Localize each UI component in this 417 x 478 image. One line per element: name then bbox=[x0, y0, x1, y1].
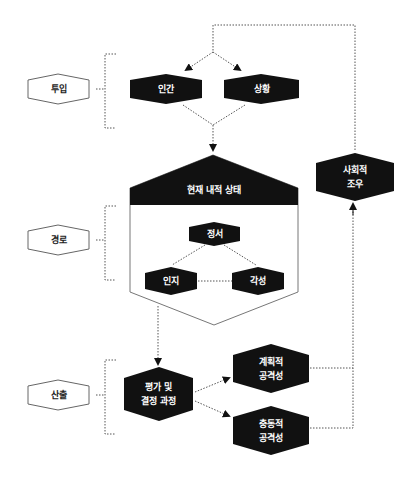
node-appraisal-shape bbox=[124, 367, 193, 421]
bracket-input bbox=[96, 54, 116, 128]
bracket-pathway bbox=[96, 206, 116, 280]
node-social-shape bbox=[316, 153, 394, 201]
node-situation-shape bbox=[224, 74, 299, 104]
node-arousal-shape bbox=[232, 267, 284, 295]
bracket-output bbox=[96, 360, 116, 434]
node-planned-shape bbox=[233, 344, 309, 393]
stage-pathway-shape bbox=[28, 225, 89, 255]
stage-input-shape bbox=[28, 74, 89, 104]
node-affect-shape bbox=[189, 222, 240, 246]
internal-state-header bbox=[130, 155, 298, 205]
diagram-canvas bbox=[0, 0, 417, 478]
node-person-shape bbox=[130, 74, 202, 104]
node-cognition-shape bbox=[145, 267, 197, 295]
stage-output-shape bbox=[28, 380, 89, 410]
node-impulsive-shape bbox=[233, 406, 309, 455]
